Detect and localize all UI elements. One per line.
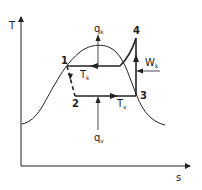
qk-arrow-head [96, 34, 101, 41]
throttling-arrow-head [68, 73, 73, 80]
tv-label: Tv [117, 99, 127, 110]
wk-sub: k [155, 62, 158, 69]
wk-label: Wk [145, 58, 158, 69]
qv-arrow-head [96, 96, 101, 103]
point-3-label: 3 [140, 91, 147, 101]
point-4-label: 4 [133, 26, 140, 36]
throttling-line [67, 66, 75, 96]
tk-arrow-head [90, 63, 98, 69]
point-1-label: 1 [61, 56, 68, 66]
tk-label: Tk [80, 70, 90, 81]
s-axis-label: s [176, 173, 181, 183]
tv-sub: v [123, 103, 127, 110]
wk-main: W [145, 57, 155, 68]
saturation-dome [22, 45, 165, 125]
qk-sub: k [100, 28, 103, 35]
qv-sub: v [100, 137, 104, 144]
point-2-label: 2 [72, 99, 79, 109]
compression-arrow-head [133, 54, 139, 62]
tk-sub: k [86, 74, 89, 81]
qk-label: qk [94, 24, 104, 35]
t-axis-label: T [9, 21, 15, 31]
wk-arrow-head [136, 69, 143, 74]
qv-label: qv [94, 133, 104, 144]
